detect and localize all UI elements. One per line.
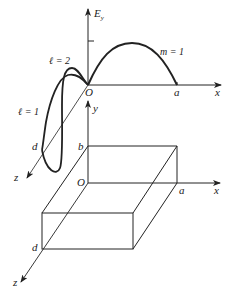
- lower-b-label: b: [78, 140, 84, 152]
- ey-axis-label: Ey: [93, 7, 105, 22]
- lower-z-axis: [21, 183, 88, 282]
- lower-z-label: z: [12, 276, 18, 288]
- lower-cavity-box: y b O a x d z: [12, 101, 220, 288]
- box-edge: [133, 146, 177, 213]
- mode-l2-label: ℓ = 2: [49, 55, 70, 66]
- lower-d-label: d: [32, 241, 38, 253]
- upper-z-label: z: [13, 171, 19, 183]
- lower-a-label: a: [179, 184, 185, 196]
- lower-origin-label: O: [77, 176, 85, 188]
- lower-x-label: x: [213, 184, 219, 196]
- upper-origin-label: O: [85, 86, 93, 98]
- box-edge: [133, 183, 177, 249]
- lower-y-label: y: [92, 102, 98, 114]
- upper-d-label: d: [32, 140, 38, 152]
- upper-z-axis: [27, 85, 88, 178]
- mode-l1-label: ℓ = 1: [18, 106, 39, 117]
- mode-m1-label: m = 1: [160, 46, 184, 57]
- upper-x-label: x: [214, 86, 220, 98]
- upper-a-label: a: [174, 86, 180, 98]
- mode-l1-curve: [42, 75, 88, 150]
- upper-field-plot: Ey m = 1 ℓ = 2 ℓ = 1 O a x d z: [13, 7, 221, 183]
- cavity-resonator-diagram: Ey m = 1 ℓ = 2 ℓ = 1 O a x d z y b O: [0, 0, 231, 296]
